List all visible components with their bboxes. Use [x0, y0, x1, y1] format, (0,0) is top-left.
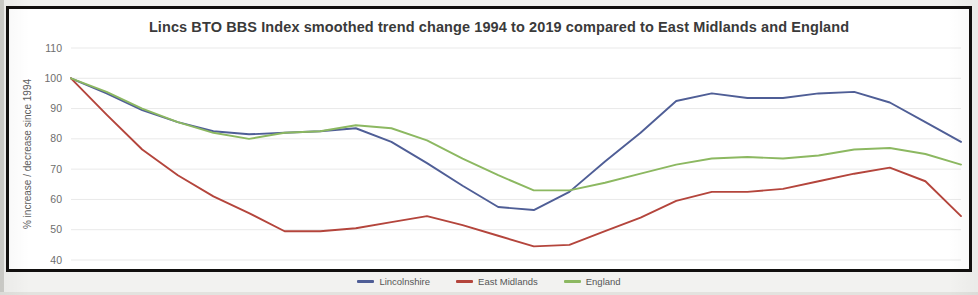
x-axis-tick-label: 2010 — [630, 267, 650, 269]
legend-label: East Midlands — [478, 276, 538, 287]
x-axis-tick-label: 2001 — [310, 267, 330, 269]
x-axis-tick-label: 2000 — [274, 267, 294, 269]
x-axis-tick-label: 1994 — [61, 267, 81, 269]
y-axis-tick-label: 80 — [50, 132, 62, 144]
legend-swatch-icon — [564, 280, 581, 283]
x-axis-tick-label: 2019 — [951, 267, 969, 269]
x-axis-tick-label: 2014 — [773, 267, 793, 269]
series-line-east-midlands — [71, 78, 961, 246]
y-axis-tick-label: 50 — [50, 223, 62, 235]
x-axis-tick-label: 2013 — [737, 267, 757, 269]
line-chart-plot: 405060708090100110% increase / decrease … — [9, 9, 969, 269]
chart-frame: Lincs BTO BBS Index smoothed trend chang… — [6, 6, 972, 272]
x-axis-tick-label: 2015 — [808, 267, 828, 269]
x-axis-tick-label: 2011 — [666, 267, 686, 269]
x-axis-tick-label: 1995 — [96, 267, 116, 269]
x-axis-tick-label: 1999 — [239, 267, 259, 269]
x-axis-tick-label: 1997 — [168, 267, 188, 269]
y-axis-tick-label: 90 — [50, 102, 62, 114]
x-axis-tick-label: 2008 — [559, 267, 579, 269]
y-axis-title: % increase / decrease since 1994 — [22, 79, 33, 230]
chart-legend: LincolnshireEast MidlandsEngland — [0, 276, 978, 287]
legend-item-lincolnshire[interactable]: Lincolnshire — [357, 276, 430, 287]
chart-canvas: Lincs BTO BBS Index smoothed trend chang… — [9, 9, 969, 269]
x-axis-tick-label: 2012 — [702, 267, 722, 269]
x-axis-tick-label: 2004 — [417, 267, 437, 269]
x-axis-tick-label: 2016 — [844, 267, 864, 269]
x-axis-tick-label: 2017 — [880, 267, 900, 269]
y-axis-tick-label: 110 — [45, 42, 62, 54]
x-axis-tick-label: 2003 — [381, 267, 401, 269]
legend-label: England — [586, 276, 621, 287]
legend-item-east-midlands[interactable]: East Midlands — [456, 276, 538, 287]
x-axis-tick-label: 2002 — [346, 267, 366, 269]
series-line-england — [71, 78, 961, 190]
legend-label: Lincolnshire — [379, 276, 430, 287]
x-axis-tick-label: 2007 — [524, 267, 544, 269]
x-axis-tick-label: 2005 — [452, 267, 472, 269]
y-axis-tick-label: 70 — [50, 163, 62, 175]
y-axis-tick-label: 100 — [44, 72, 62, 84]
x-axis-tick-label: 1998 — [203, 267, 223, 269]
x-axis-tick-label: 1996 — [132, 267, 152, 269]
legend-swatch-icon — [456, 280, 473, 283]
y-axis-tick-label: 60 — [50, 193, 62, 205]
x-axis-tick-label: 2009 — [595, 267, 615, 269]
legend-item-england[interactable]: England — [564, 276, 621, 287]
x-axis-tick-label: 2006 — [488, 267, 508, 269]
x-axis-tick-label: 2018 — [915, 267, 935, 269]
chart-screenshot: Lincs BTO BBS Index smoothed trend chang… — [0, 0, 978, 295]
legend-swatch-icon — [357, 280, 374, 283]
y-axis-tick-label: 40 — [50, 254, 62, 266]
page-edge-left — [0, 0, 4, 295]
